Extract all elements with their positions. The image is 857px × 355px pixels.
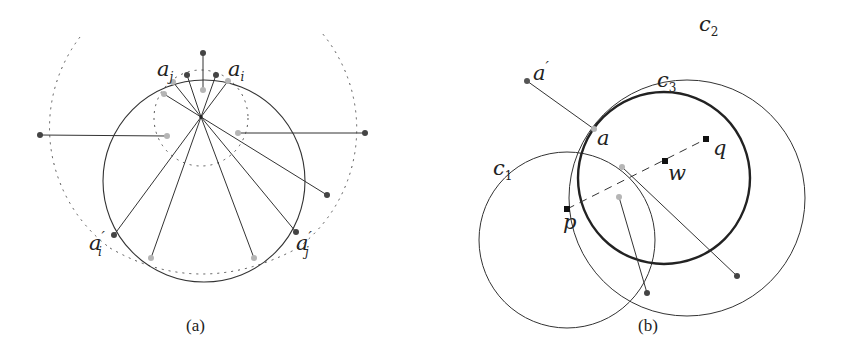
hub-point [199,115,203,119]
label-c2: c2 [699,12,718,39]
point-dark-2 [644,290,650,296]
label-a-i: ai [228,57,245,84]
circle-c3 [578,92,750,264]
point-a-prime [524,78,530,84]
rays [40,53,365,258]
label-q: q [713,136,726,160]
panel-a: aj ai a′i a′j (a) [37,33,368,335]
point-q [703,136,709,142]
label-w: w [668,161,686,185]
segment-a-prime-a [527,81,594,129]
segment-2 [619,197,647,293]
panel-b: a′ a p w q c1 c2 c3 (b) [479,12,805,335]
main-circle [103,80,305,282]
point-light-1 [619,164,625,170]
label-a-prime: a′ [533,58,550,85]
label-c1: c1 [493,156,512,183]
point-light-2 [616,194,622,200]
light-points [148,78,257,261]
label-p: p [563,210,576,234]
figure-canvas: aj ai a′i a′j (a) a′ a p w q c1 c2 c3 [0,0,857,355]
point-dark-1 [734,273,740,279]
caption-a: (a) [186,316,205,335]
label-a: a [597,126,610,150]
caption-b: (b) [638,316,658,335]
label-c3: c3 [657,68,676,95]
label-a-j: aj [157,57,174,84]
label-a-i-prime: a′i [89,228,106,259]
label-a-j-prime: a′j [296,228,313,259]
